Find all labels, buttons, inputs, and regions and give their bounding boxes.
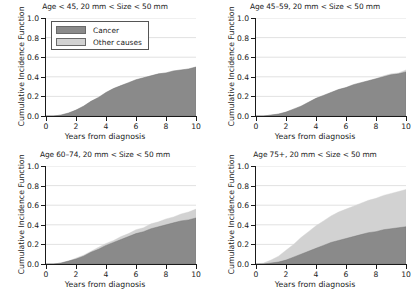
x-tick bbox=[46, 265, 47, 269]
legend-swatch-other-causes bbox=[56, 38, 86, 46]
y-tick bbox=[251, 225, 255, 226]
legend-swatch-cancer bbox=[56, 26, 86, 34]
x-tick bbox=[406, 265, 407, 269]
legend-label-cancer: Cancer bbox=[93, 26, 119, 35]
y-axis-title: Cumulative Incidence Function bbox=[227, 17, 236, 127]
y-tick-label: 0.2 bbox=[27, 92, 39, 101]
x-tick-label: 6 bbox=[344, 122, 349, 131]
x-tick bbox=[136, 265, 137, 269]
plot-area-3 bbox=[46, 166, 196, 264]
x-axis-line bbox=[255, 264, 407, 265]
panel-age-under-45: Age < 45, 20 mm < Size < 50 mm 0.00.20.4… bbox=[0, 0, 210, 148]
x-tick bbox=[406, 117, 407, 121]
y-axis-line bbox=[45, 18, 46, 116]
y-tick-label: 0.4 bbox=[27, 220, 39, 229]
x-axis-line bbox=[255, 116, 407, 117]
plot-svg-2 bbox=[256, 18, 406, 116]
y-tick bbox=[251, 77, 255, 78]
legend-item-cancer: Cancer bbox=[56, 25, 119, 35]
legend: Cancer Other causes bbox=[51, 21, 149, 50]
y-tick-label: 1.0 bbox=[27, 162, 39, 171]
x-axis-line bbox=[45, 116, 197, 117]
y-tick-label: 0.6 bbox=[237, 201, 249, 210]
x-tick-label: 6 bbox=[134, 270, 139, 279]
plot-area-4 bbox=[256, 166, 406, 264]
x-tick bbox=[376, 265, 377, 269]
panel-age-60-74: Age 60–74, 20 mm < Size < 50 mm 0.00.20.… bbox=[0, 148, 210, 297]
y-tick bbox=[41, 166, 45, 167]
x-tick-label: 2 bbox=[284, 270, 289, 279]
y-tick bbox=[251, 96, 255, 97]
panel-age-45-59: Age 45–59, 20 mm < Size < 50 mm 0.00.20.… bbox=[210, 0, 420, 148]
x-tick-label: 8 bbox=[164, 122, 169, 131]
x-tick bbox=[286, 265, 287, 269]
x-tick bbox=[316, 117, 317, 121]
x-axis-title: Years from diagnosis bbox=[0, 132, 210, 141]
y-tick-label: 0.0 bbox=[237, 112, 249, 121]
y-tick-label: 0.6 bbox=[27, 53, 39, 62]
y-tick-label: 0.8 bbox=[237, 33, 249, 42]
plot-svg-4 bbox=[256, 166, 406, 264]
x-tick bbox=[166, 117, 167, 121]
x-axis-title: Years from diagnosis bbox=[210, 280, 420, 289]
x-tick-label: 0 bbox=[44, 270, 49, 279]
x-tick-label: 2 bbox=[74, 270, 79, 279]
x-tick bbox=[346, 265, 347, 269]
x-tick bbox=[106, 117, 107, 121]
y-axis-line bbox=[255, 166, 256, 264]
x-tick-label: 4 bbox=[314, 122, 319, 131]
y-tick-label: 0.2 bbox=[237, 240, 249, 249]
x-tick bbox=[346, 117, 347, 121]
y-tick bbox=[41, 186, 45, 187]
y-tick bbox=[251, 244, 255, 245]
y-axis-line bbox=[255, 18, 256, 116]
y-tick bbox=[41, 77, 45, 78]
x-tick-label: 4 bbox=[104, 122, 109, 131]
y-tick bbox=[251, 205, 255, 206]
plot-area-2 bbox=[256, 18, 406, 116]
y-tick-label: 0.0 bbox=[27, 260, 39, 269]
x-tick bbox=[136, 117, 137, 121]
plot-svg-3 bbox=[46, 166, 196, 264]
y-tick bbox=[251, 38, 255, 39]
x-tick bbox=[166, 265, 167, 269]
x-tick-label: 10 bbox=[191, 270, 201, 279]
y-tick bbox=[41, 38, 45, 39]
y-tick bbox=[251, 186, 255, 187]
x-tick bbox=[256, 265, 257, 269]
x-tick-label: 8 bbox=[374, 270, 379, 279]
y-tick bbox=[251, 264, 255, 265]
x-tick-label: 0 bbox=[254, 270, 259, 279]
cumulative-incidence-figure: Age < 45, 20 mm < Size < 50 mm 0.00.20.4… bbox=[0, 0, 420, 297]
x-tick bbox=[286, 117, 287, 121]
y-tick bbox=[251, 116, 255, 117]
y-tick bbox=[41, 96, 45, 97]
y-tick-label: 0.4 bbox=[237, 220, 249, 229]
y-tick-label: 0.0 bbox=[27, 112, 39, 121]
y-axis-title: Cumulative Incidence Function bbox=[17, 17, 26, 127]
y-tick-label: 0.2 bbox=[237, 92, 249, 101]
y-tick-label: 0.0 bbox=[237, 260, 249, 269]
y-tick-label: 0.6 bbox=[237, 53, 249, 62]
x-tick-label: 10 bbox=[191, 122, 201, 131]
legend-label-other-causes: Other causes bbox=[93, 38, 142, 47]
legend-item-other-causes: Other causes bbox=[56, 37, 142, 47]
y-tick bbox=[41, 18, 45, 19]
x-axis-title: Years from diagnosis bbox=[210, 132, 420, 141]
y-axis-title: Cumulative Incidence Function bbox=[227, 165, 236, 275]
y-tick-label: 0.8 bbox=[237, 181, 249, 190]
y-tick bbox=[41, 244, 45, 245]
y-tick bbox=[41, 264, 45, 265]
x-tick-label: 10 bbox=[401, 122, 411, 131]
y-tick-label: 1.0 bbox=[237, 162, 249, 171]
x-tick bbox=[106, 265, 107, 269]
y-tick-label: 0.4 bbox=[27, 72, 39, 81]
y-axis-title: Cumulative Incidence Function bbox=[17, 165, 26, 275]
x-tick bbox=[256, 117, 257, 121]
y-tick bbox=[41, 116, 45, 117]
x-tick bbox=[196, 265, 197, 269]
y-tick-label: 1.0 bbox=[237, 14, 249, 23]
x-tick-label: 2 bbox=[284, 122, 289, 131]
panel-age-75-plus: Age 75+, 20 mm < Size < 50 mm 0.00.20.40… bbox=[210, 148, 420, 297]
y-tick-label: 0.4 bbox=[237, 72, 249, 81]
